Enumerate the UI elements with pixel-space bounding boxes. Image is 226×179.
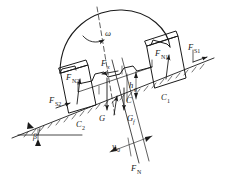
svg-text:2: 2 <box>82 125 85 131</box>
rotation-arrow <box>83 36 104 42</box>
svg-text:f: f <box>133 119 136 125</box>
svg-text:F: F <box>65 72 72 82</box>
label-omega: ω <box>105 28 111 38</box>
svg-text:F: F <box>100 58 107 68</box>
svg-text:N1: N1 <box>161 54 168 60</box>
svg-text:S2: S2 <box>55 101 61 107</box>
label-FN2: F N2 <box>65 72 79 84</box>
dimension-y0 <box>110 136 152 156</box>
label-Fx: F x <box>100 58 110 70</box>
force-analysis-diagram: ω β F N1 F N2 F S1 F S2 F x G <box>0 0 226 179</box>
svg-text:1: 1 <box>167 98 170 104</box>
upper-structure-dome <box>60 10 170 73</box>
label-FS1: F S1 <box>187 42 200 54</box>
label-beta: β <box>32 132 37 141</box>
svg-text:S1: S1 <box>194 48 200 54</box>
label-C1: C 1 <box>161 92 170 104</box>
diagram-canvas <box>12 7 214 163</box>
svg-text:G: G <box>99 113 105 123</box>
label-C2: C 2 <box>76 119 85 131</box>
svg-text:h: h <box>129 80 133 90</box>
label-FN1: F N1 <box>154 48 168 60</box>
vector-FN-resultant-2 <box>122 58 149 161</box>
label-G: G <box>99 113 105 123</box>
svg-text:F: F <box>154 48 161 58</box>
label-FS2: F S2 <box>48 95 61 107</box>
slope-surface-line <box>12 58 214 138</box>
svg-text:g: g <box>134 86 137 92</box>
label-FN: F N <box>130 163 142 175</box>
label-C-center: C <box>126 95 132 105</box>
svg-text:N2: N2 <box>72 78 79 84</box>
svg-text:0: 0 <box>117 147 120 153</box>
svg-text:C: C <box>126 95 132 105</box>
svg-text:F: F <box>130 163 137 173</box>
svg-text:F: F <box>48 95 55 105</box>
svg-text:N: N <box>137 169 142 175</box>
svg-text:F: F <box>187 42 194 52</box>
svg-text:y: y <box>111 141 116 151</box>
svg-text:x: x <box>106 64 110 70</box>
